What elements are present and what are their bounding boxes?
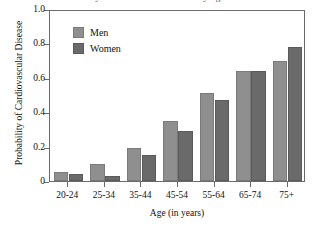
x-tick bbox=[177, 182, 178, 187]
x-tick bbox=[214, 182, 215, 187]
legend-item-women: Women bbox=[73, 41, 121, 55]
bar-men-55-64 bbox=[200, 93, 215, 181]
legend-swatch-men-icon bbox=[73, 27, 84, 38]
y-tick-label: 0.6 bbox=[5, 74, 45, 84]
chart-title: Probability of Cardiovascular Disease by… bbox=[0, 0, 315, 2]
x-tick-label: 75+ bbox=[263, 190, 311, 200]
bar-women-65-74 bbox=[251, 71, 266, 181]
y-tick-label: 0.2 bbox=[5, 143, 45, 153]
legend-item-men: Men bbox=[73, 25, 121, 39]
legend-label-men: Men bbox=[90, 27, 108, 38]
y-tick-label: 1.0 bbox=[5, 5, 45, 15]
bar-women-45-54 bbox=[178, 131, 193, 181]
chart-legend: Men Women bbox=[73, 25, 121, 57]
x-tick bbox=[104, 182, 105, 187]
bar-women-20-24 bbox=[69, 174, 84, 181]
y-tick-label: 0.4 bbox=[5, 108, 45, 118]
legend-swatch-women-icon bbox=[73, 43, 84, 54]
y-tick-label: 0 bbox=[5, 177, 45, 187]
bar-men-45-54 bbox=[163, 121, 178, 181]
x-tick bbox=[140, 182, 141, 187]
y-tick-label: 0.8 bbox=[5, 39, 45, 49]
bar-men-25-34 bbox=[90, 164, 105, 181]
bar-women-75+ bbox=[288, 47, 303, 181]
bar-women-35-44 bbox=[142, 155, 157, 181]
x-tick bbox=[67, 182, 68, 187]
legend-label-women: Women bbox=[90, 43, 121, 54]
x-axis-label: Age (in years) bbox=[49, 208, 305, 218]
x-tick bbox=[287, 182, 288, 187]
bar-men-20-24 bbox=[54, 172, 69, 181]
bar-men-65-74 bbox=[236, 71, 251, 181]
y-axis-label: Probability of Cardiovascular Disease bbox=[14, 8, 24, 178]
x-tick bbox=[250, 182, 251, 187]
bar-men-75+ bbox=[273, 61, 288, 181]
bar-women-25-34 bbox=[105, 176, 120, 181]
chart-figure: Probability of Cardiovascular Disease by… bbox=[0, 0, 315, 227]
bar-men-35-44 bbox=[127, 148, 142, 181]
bar-women-55-64 bbox=[215, 100, 230, 181]
